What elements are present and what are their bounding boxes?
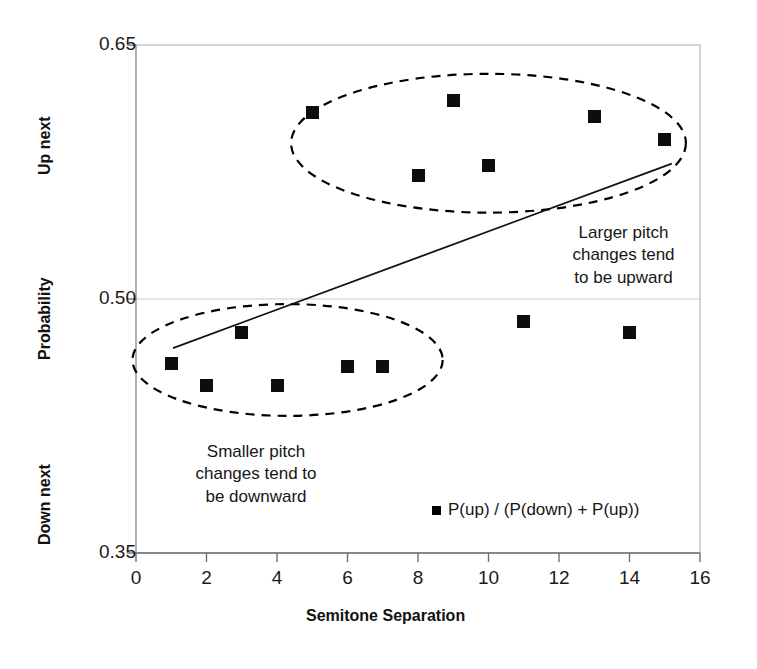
data-point-marker xyxy=(341,360,354,373)
data-point-marker xyxy=(623,326,636,339)
data-point-marker xyxy=(235,326,248,339)
legend-marker-icon xyxy=(432,506,441,515)
x-tick-label: 12 xyxy=(534,567,584,589)
x-tick-label: 6 xyxy=(323,567,373,589)
data-point-marker xyxy=(658,133,671,146)
annotation-larger-pitch: Larger pitch changes tend to be upward xyxy=(536,222,711,289)
y-axis-region-down-next: Down next xyxy=(36,464,54,545)
x-axis-ticks xyxy=(136,553,700,562)
y-tick-label-mid: 0.50 xyxy=(99,287,136,309)
x-tick-label: 16 xyxy=(675,567,725,589)
x-tick-label: 4 xyxy=(252,567,302,589)
annotation-smaller-pitch: Smaller pitch changes tend to be downwar… xyxy=(150,441,362,508)
y-axis-region-up-next: Up next xyxy=(36,116,54,175)
y-tick-label-top: 0.65 xyxy=(99,33,136,55)
x-tick-label: 14 xyxy=(605,567,655,589)
data-point-marker xyxy=(200,379,213,392)
chart-figure: 0.65 0.50 0.35 0246810121416 Up next Pro… xyxy=(0,0,757,669)
data-point-marker xyxy=(306,106,319,119)
data-point-marker xyxy=(517,315,530,328)
x-tick-label: 10 xyxy=(464,567,514,589)
y-axis-title-probability: Probability xyxy=(36,277,54,360)
data-point-marker xyxy=(271,379,284,392)
data-point-marker xyxy=(165,357,178,370)
data-point-marker xyxy=(412,169,425,182)
data-point-marker xyxy=(588,110,601,123)
x-tick-label: 0 xyxy=(111,567,161,589)
data-point-marker xyxy=(482,159,495,172)
x-tick-label: 2 xyxy=(182,567,232,589)
data-point-marker xyxy=(447,94,460,107)
legend-label: P(up) / (P(down) + P(up)) xyxy=(448,500,639,520)
x-axis-title: Semitone Separation xyxy=(306,607,465,625)
y-tick-label-bottom: 0.35 xyxy=(99,541,136,563)
x-tick-label: 8 xyxy=(393,567,443,589)
legend: P(up) / (P(down) + P(up)) xyxy=(432,500,639,520)
data-point-marker xyxy=(376,360,389,373)
